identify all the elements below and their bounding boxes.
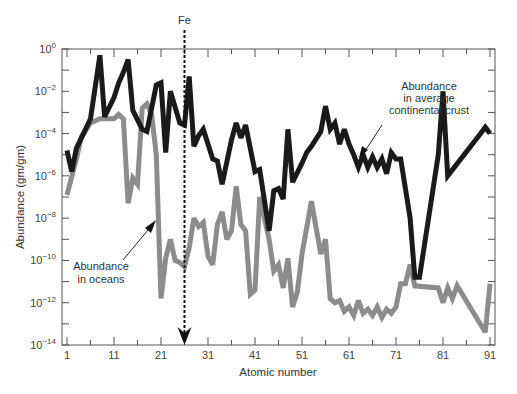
abundance-chart: 10010−210−410−610−810−1010−1210−14 11121… [0, 0, 517, 394]
ocean-annotation-text: in oceans [77, 273, 125, 285]
y-tick-label: 10−14 [30, 337, 56, 351]
x-tick-label: 91 [484, 349, 496, 361]
x-tick-label: 31 [202, 349, 214, 361]
x-tick-label: 81 [437, 349, 449, 361]
y-tick-label: 10−8 [35, 210, 57, 224]
x-tick-label: 11 [108, 349, 119, 361]
x-tick-label: 41 [249, 349, 261, 361]
y-axis-title: Abundance (gm/gm) [14, 145, 26, 249]
crust-annotation-text: Abundance [401, 80, 457, 92]
arrow-down-icon [178, 327, 192, 345]
x-tick-label: 1 [64, 349, 70, 361]
ocean-pointer-line [123, 230, 148, 260]
crust-annotation-text: continental crust [389, 104, 469, 116]
y-tick-label: 10−10 [30, 252, 56, 266]
ocean-annotation-text: Abundance [73, 260, 129, 272]
crust-pointer-line [365, 125, 382, 151]
x-tick-label: 51 [296, 349, 308, 361]
y-tick-label: 100 [39, 41, 56, 55]
crust-annotation-text: in average [403, 92, 454, 104]
fe-label: Fe [178, 14, 191, 26]
x-axis-title: Atomic number [239, 366, 317, 378]
x-tick-label: 61 [343, 349, 355, 361]
fe-marker: Fe [178, 14, 192, 345]
x-tick-label: 21 [155, 349, 167, 361]
y-tick-label: 10−6 [35, 168, 57, 182]
y-tick-label: 10−2 [35, 83, 57, 97]
x-tick-label: 71 [390, 349, 402, 361]
y-tick-label: 10−4 [35, 126, 57, 140]
y-tick-label: 10−12 [30, 295, 56, 309]
